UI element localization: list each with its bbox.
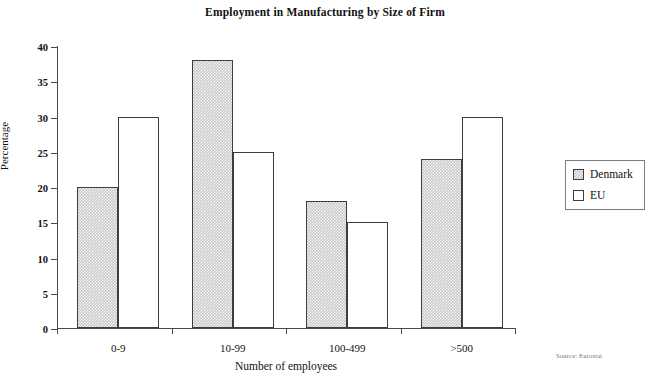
x-tick-label: >500 — [450, 342, 473, 354]
y-tick-label: 0 — [43, 324, 48, 335]
y-tick-label: 35 — [38, 77, 49, 88]
y-tick-label: 10 — [38, 253, 49, 264]
x-axis-title: Number of employees — [57, 360, 515, 372]
bar-chart-figure: Employment in Manufacturing by Size of F… — [0, 0, 650, 383]
legend-label-eu: EU — [590, 189, 605, 201]
bar-group — [192, 46, 274, 328]
y-tick-mark — [51, 118, 57, 119]
bar-eu-0-9[interactable] — [118, 117, 159, 329]
legend-entry-eu[interactable]: EU — [573, 189, 644, 201]
legend-label-denmark: Denmark — [590, 168, 633, 180]
bar-denmark-10-99[interactable] — [192, 60, 233, 328]
x-tick-mark — [172, 328, 173, 334]
bar-eu-10-99[interactable] — [233, 152, 274, 328]
y-tick-mark — [51, 82, 57, 83]
y-tick-label: 30 — [38, 112, 49, 123]
y-tick-mark — [51, 223, 57, 224]
bar-eu-100-499[interactable] — [347, 222, 388, 328]
legend-swatch-eu — [573, 190, 584, 201]
x-tick-mark — [286, 328, 287, 334]
bar-eu->500[interactable] — [462, 117, 503, 329]
y-axis-line — [57, 46, 58, 329]
x-tick-label: 100-499 — [329, 342, 366, 354]
bar-group — [77, 46, 159, 328]
y-axis-title: Percentage — [0, 122, 10, 170]
x-tick-label: 10-99 — [220, 342, 246, 354]
x-tick-mark — [515, 328, 516, 334]
legend-swatch-denmark — [573, 169, 584, 180]
bar-group — [421, 46, 503, 328]
source-note: Source: Eurostat — [556, 352, 602, 359]
y-tick-label: 40 — [38, 42, 49, 53]
y-tick-mark — [51, 294, 57, 295]
legend-entry-denmark[interactable]: Denmark — [573, 168, 644, 180]
y-tick-mark — [51, 188, 57, 189]
chart-title: Employment in Manufacturing by Size of F… — [0, 6, 650, 18]
y-tick-label: 5 — [43, 288, 48, 299]
bar-denmark-0-9[interactable] — [77, 187, 118, 328]
y-tick-mark — [51, 153, 57, 154]
bar-denmark-100-499[interactable] — [306, 201, 347, 328]
y-tick-label: 25 — [38, 147, 49, 158]
legend: Denmark EU — [565, 160, 645, 210]
bar-denmark->500[interactable] — [421, 159, 462, 328]
x-tick-mark — [401, 328, 402, 334]
x-tick-mark — [57, 328, 58, 334]
y-tick-label: 15 — [38, 218, 49, 229]
y-tick-mark — [51, 259, 57, 260]
y-tick-label: 20 — [38, 183, 49, 194]
x-tick-label: 0-9 — [111, 342, 126, 354]
bar-group — [306, 46, 388, 328]
plot-area: 0510152025303540 0-910-99100-499>500 — [57, 46, 515, 329]
y-tick-mark — [51, 47, 57, 48]
